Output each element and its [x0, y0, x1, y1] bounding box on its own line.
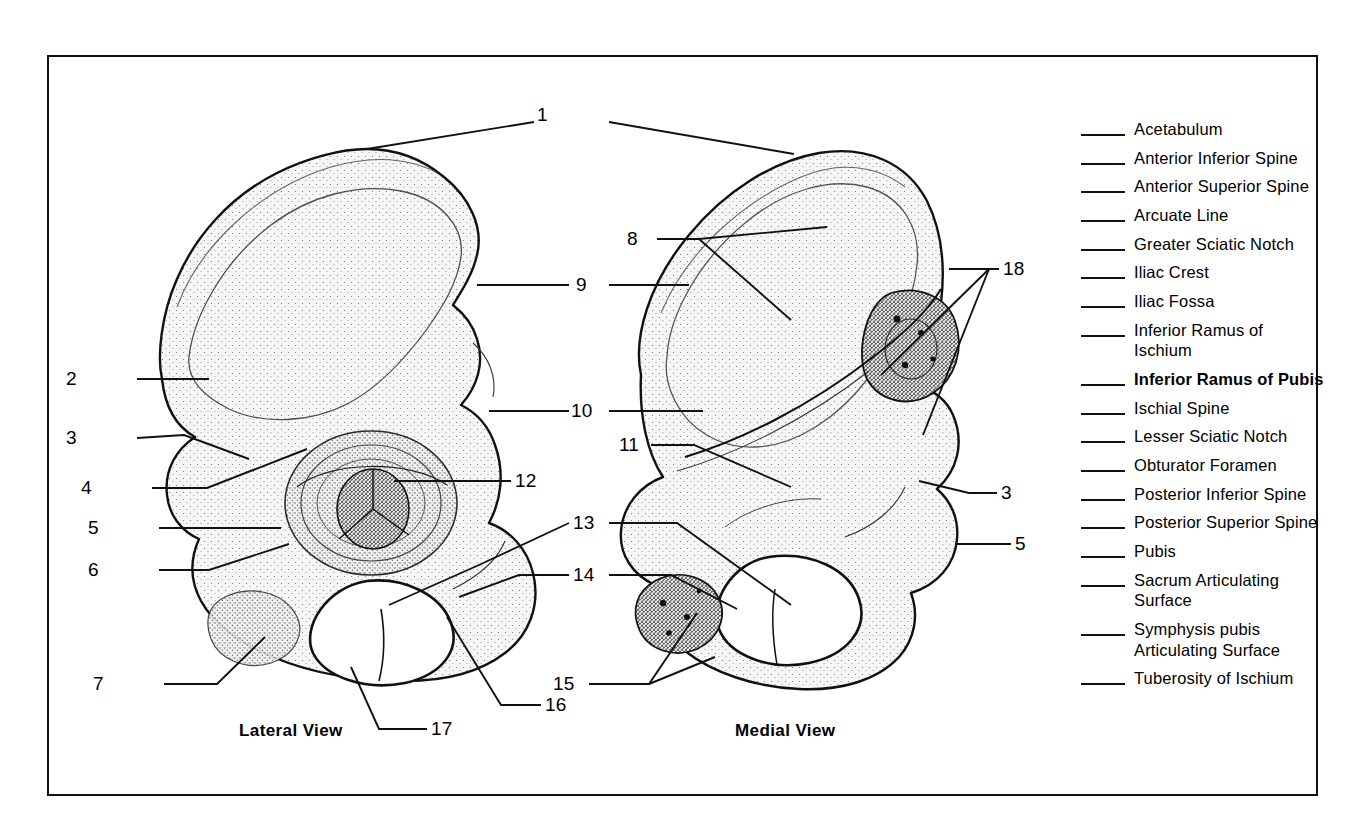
legend-item-label: Pubis [1134, 541, 1176, 562]
legend-item[interactable]: Greater Sciatic Notch [1081, 234, 1361, 255]
legend-item-label: Inferior Ramus of Ischium [1134, 320, 1263, 361]
answer-blank-line[interactable] [1081, 178, 1125, 193]
legend-item[interactable]: Anterior Inferior Spine [1081, 148, 1361, 169]
diagram-frame: 1 2 3 4 5 6 7 8 9 10 11 12 13 14 15 16 1… [47, 55, 1318, 796]
legend-item[interactable]: Anterior Superior Spine [1081, 176, 1361, 197]
legend-item-label: Greater Sciatic Notch [1134, 234, 1294, 255]
legend-item[interactable]: Inferior Ramus of Ischium [1081, 320, 1361, 361]
callout-number-4: 4 [81, 478, 92, 497]
answer-blank-line[interactable] [1081, 514, 1125, 529]
legend-item-label: Posterior Superior Spine [1134, 512, 1317, 533]
legend-item-label: Anterior Superior Spine [1134, 176, 1309, 197]
callout-number-12: 12 [515, 471, 537, 490]
caption-lateral-view: Lateral View [239, 721, 343, 741]
legend-item[interactable]: Inferior Ramus of Pubis [1081, 369, 1361, 390]
legend-item-label: Iliac Crest [1134, 262, 1209, 283]
legend-item-label: Arcuate Line [1134, 205, 1228, 226]
legend-item[interactable]: Iliac Fossa [1081, 291, 1361, 312]
callout-number-15: 15 [553, 674, 575, 693]
callout-number-5-medial: 5 [1015, 534, 1026, 553]
legend-item-label: Ischial Spine [1134, 398, 1230, 419]
legend-item-label: Symphysis pubis Articulating Surface [1134, 619, 1280, 660]
answer-blank-line[interactable] [1081, 670, 1125, 685]
caption-medial-view: Medial View [735, 721, 835, 741]
legend-item[interactable]: Acetabulum [1081, 119, 1361, 140]
legend-item[interactable]: Ischial Spine [1081, 398, 1361, 419]
legend-item-label: Tuberosity of Ischium [1134, 668, 1293, 689]
answer-blank-line[interactable] [1081, 543, 1125, 558]
legend-item-label: Iliac Fossa [1134, 291, 1215, 312]
term-legend-list: Acetabulum Anterior Inferior Spine Anter… [1081, 119, 1361, 697]
answer-blank-line[interactable] [1081, 457, 1125, 472]
legend-item-label: Lesser Sciatic Notch [1134, 426, 1287, 447]
callout-number-16: 16 [545, 695, 567, 714]
callout-number-9: 9 [576, 275, 587, 294]
callout-number-3: 3 [66, 428, 77, 447]
callout-number-8: 8 [627, 229, 638, 248]
legend-item[interactable]: Pubis [1081, 541, 1361, 562]
callout-number-5: 5 [88, 518, 99, 537]
answer-blank-line[interactable] [1081, 150, 1125, 165]
callout-number-10: 10 [571, 401, 593, 420]
medial-view-bone [621, 151, 959, 689]
legend-item[interactable]: Posterior Inferior Spine [1081, 484, 1361, 505]
answer-blank-line[interactable] [1081, 121, 1125, 136]
callout-number-7: 7 [93, 674, 104, 693]
answer-blank-line[interactable] [1081, 371, 1125, 386]
legend-item-label: Posterior Inferior Spine [1134, 484, 1306, 505]
legend-item-label: Sacrum Articulating Surface [1134, 570, 1279, 611]
answer-blank-line[interactable] [1081, 236, 1125, 251]
callout-number-11: 11 [619, 435, 639, 454]
answer-blank-line[interactable] [1081, 400, 1125, 415]
answer-blank-line[interactable] [1081, 572, 1125, 587]
answer-blank-line[interactable] [1081, 264, 1125, 279]
answer-blank-line[interactable] [1081, 293, 1125, 308]
callout-number-6: 6 [88, 560, 99, 579]
legend-item[interactable]: Iliac Crest [1081, 262, 1361, 283]
worksheet-page: 1 2 3 4 5 6 7 8 9 10 11 12 13 14 15 16 1… [0, 0, 1365, 826]
legend-item[interactable]: Symphysis pubis Articulating Surface [1081, 619, 1361, 660]
legend-item[interactable]: Sacrum Articulating Surface [1081, 570, 1361, 611]
legend-item-label: Anterior Inferior Spine [1134, 148, 1298, 169]
callout-number-2: 2 [66, 369, 77, 388]
answer-blank-line[interactable] [1081, 207, 1125, 222]
legend-item[interactable]: Posterior Superior Spine [1081, 512, 1361, 533]
legend-item[interactable]: Arcuate Line [1081, 205, 1361, 226]
lateral-view-bone [160, 149, 535, 685]
callout-number-14: 14 [573, 565, 595, 584]
callout-number-13: 13 [573, 513, 595, 532]
legend-item-label: Acetabulum [1134, 119, 1223, 140]
callout-number-1: 1 [537, 105, 548, 124]
callout-number-18: 18 [1003, 259, 1025, 278]
legend-item-label: Inferior Ramus of Pubis [1134, 369, 1324, 390]
answer-blank-line[interactable] [1081, 428, 1125, 443]
callout-number-17: 17 [431, 719, 453, 738]
legend-item[interactable]: Lesser Sciatic Notch [1081, 426, 1361, 447]
answer-blank-line[interactable] [1081, 486, 1125, 501]
answer-blank-line[interactable] [1081, 621, 1125, 636]
legend-item[interactable]: Obturator Foramen [1081, 455, 1361, 476]
callout-number-3-medial: 3 [1001, 483, 1012, 502]
legend-item-label: Obturator Foramen [1134, 455, 1277, 476]
answer-blank-line[interactable] [1081, 322, 1125, 337]
legend-item[interactable]: Tuberosity of Ischium [1081, 668, 1361, 689]
